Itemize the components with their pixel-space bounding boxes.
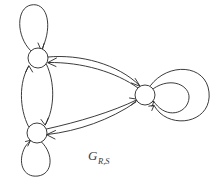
edge-bottom-left-to-top-left bbox=[21, 66, 32, 127]
graph-label: G R,S bbox=[88, 148, 110, 166]
graph-figure: G R,S bbox=[0, 0, 214, 181]
graph-canvas: G R,S bbox=[0, 0, 214, 181]
edge-right-to-top-left bbox=[48, 58, 138, 88]
self-loop-bottom-left bbox=[21, 140, 50, 176]
right-node bbox=[135, 85, 155, 105]
edge-right-to-bottom-left bbox=[47, 102, 136, 139]
graph-label-base: G bbox=[88, 148, 98, 163]
top-left-node bbox=[28, 48, 48, 68]
graph-label-subscript: R,S bbox=[97, 156, 110, 166]
edge-top-left-to-bottom-left bbox=[41, 65, 53, 126]
self-loop-right-outer bbox=[149, 69, 209, 121]
self-loop-top-left bbox=[20, 5, 48, 52]
bottom-left-node bbox=[27, 123, 47, 143]
edge-top-left-to-right bbox=[48, 56, 140, 86]
